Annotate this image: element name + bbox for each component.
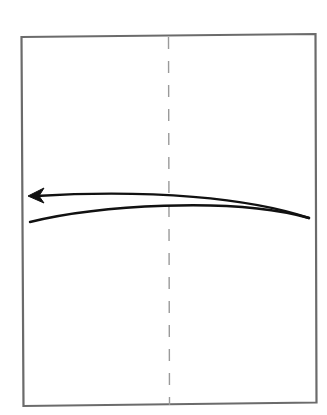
fold-diagram xyxy=(0,0,327,415)
